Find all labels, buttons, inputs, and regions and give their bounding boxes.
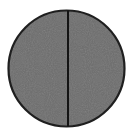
bisected-circle-diagram bbox=[0, 0, 135, 134]
figure-canvas bbox=[0, 0, 135, 134]
